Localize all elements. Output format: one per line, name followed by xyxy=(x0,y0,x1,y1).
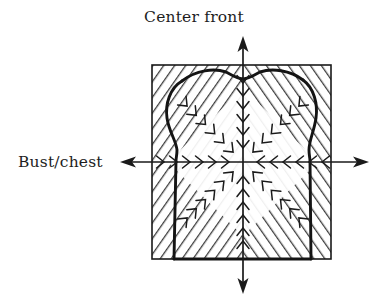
bodice-grading-diagram xyxy=(0,0,388,300)
label-center-front: Center front xyxy=(144,10,244,26)
label-bust-chest: Bust/chest xyxy=(18,155,103,171)
